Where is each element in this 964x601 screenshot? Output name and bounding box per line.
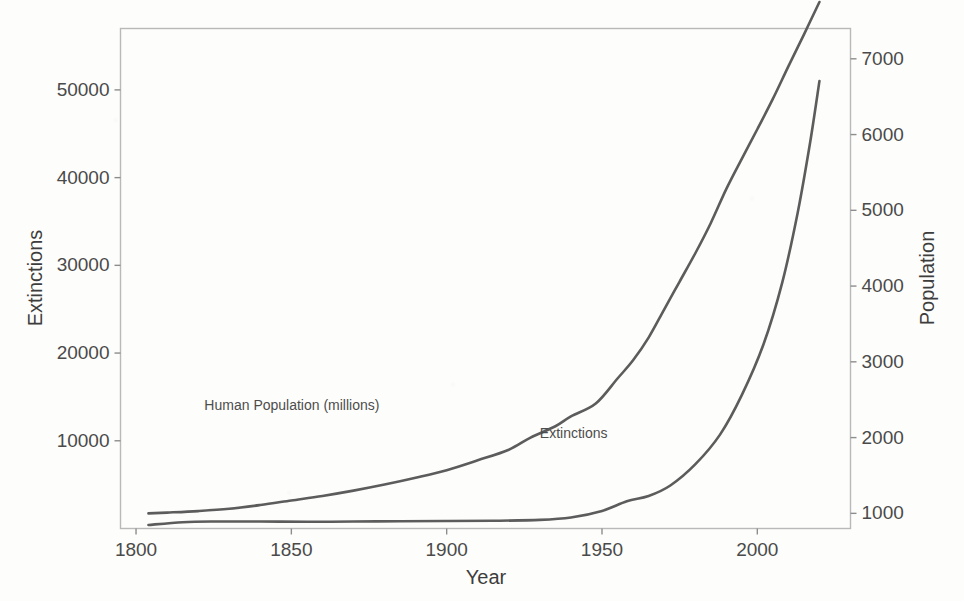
left-tick-label: 40000 (57, 167, 110, 188)
left-tick-label: 20000 (57, 342, 110, 363)
x-tick-label: 1900 (426, 539, 468, 560)
right-tick-label: 6000 (862, 124, 904, 145)
right-tick-label: 7000 (862, 48, 904, 69)
right-tick-label: 2000 (862, 427, 904, 448)
chart-figure: 1000020000300004000050000 10002000300040… (0, 0, 964, 601)
right-tick-label: 1000 (862, 502, 904, 523)
right-tick-label: 3000 (862, 351, 904, 372)
dual-axis-line-chart: 1000020000300004000050000 10002000300040… (0, 0, 964, 601)
x-tick-label: 1800 (115, 539, 157, 560)
right-tick-label: 4000 (862, 275, 904, 296)
y2-axis-title: Population (916, 231, 938, 326)
series-annotation-label: Human Population (millions) (204, 397, 379, 413)
right-tick-label: 5000 (862, 199, 904, 220)
x-tick-label: 1850 (270, 539, 312, 560)
x-tick-label: 2000 (736, 539, 778, 560)
series-annotation-label: Extinctions (540, 425, 608, 441)
y-axis-title: Extinctions (24, 230, 46, 327)
left-tick-label: 50000 (57, 79, 110, 100)
x-axis-title: Year (466, 566, 507, 588)
left-tick-label: 10000 (57, 430, 110, 451)
left-tick-label: 30000 (57, 254, 110, 275)
x-tick-label: 1950 (581, 539, 623, 560)
